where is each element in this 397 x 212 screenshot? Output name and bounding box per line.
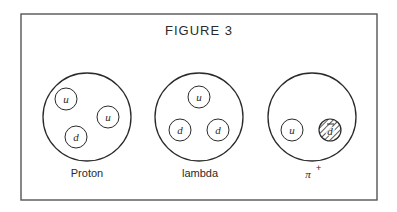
- anti-down-quark: d: [319, 119, 341, 141]
- quark-down: d: [207, 119, 229, 141]
- particle-label: Proton: [71, 167, 103, 179]
- quark-down: d: [169, 119, 191, 141]
- particle-lambda: u d d lambda: [155, 73, 243, 179]
- pi-plus-outline: [268, 73, 356, 161]
- quark-down: d: [65, 126, 87, 148]
- svg-text:u: u: [289, 124, 295, 136]
- particle-label: lambda: [182, 167, 219, 179]
- quark-up: u: [188, 86, 210, 108]
- figure-3-diagram: FIGURE 3 u u d Proton u d d: [0, 0, 397, 212]
- particle-pi-plus: u d π +: [268, 73, 356, 180]
- quark-up: u: [97, 106, 119, 128]
- quark-up: u: [55, 88, 77, 110]
- svg-text:d: d: [327, 125, 333, 137]
- particle-label: π: [305, 168, 311, 180]
- svg-text:d: d: [73, 131, 79, 143]
- svg-text:d: d: [177, 124, 183, 136]
- quark-up: u: [281, 119, 303, 141]
- proton-outline: [43, 73, 131, 161]
- svg-text:d: d: [215, 124, 221, 136]
- svg-text:u: u: [63, 93, 69, 105]
- particle-proton: u u d Proton: [43, 73, 131, 179]
- svg-text:u: u: [196, 91, 202, 103]
- figure-title: FIGURE 3: [165, 23, 233, 38]
- particle-label-superscript: +: [316, 163, 321, 173]
- svg-text:u: u: [105, 111, 111, 123]
